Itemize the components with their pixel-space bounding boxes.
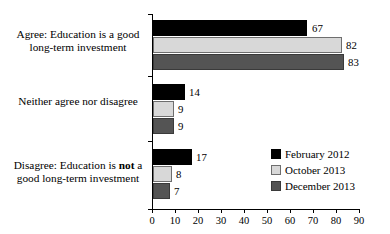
x-tick-label-60: 60 [278, 215, 302, 227]
bar-value-neither-oct2013: 9 [175, 101, 183, 117]
legend-label-october-2013: October 2013 [285, 164, 345, 176]
category-label-neither-text: Neither agree nor disagree [18, 95, 138, 107]
legend-item-december-2013: December 2013 [271, 178, 355, 193]
x-tick-80 [336, 209, 337, 213]
x-tick-50 [267, 209, 268, 213]
legend-item-october-2013: October 2013 [271, 162, 355, 177]
chart-legend: February 2012 October 2013 December 2013 [271, 146, 355, 194]
bar-agree-dec2013 [153, 54, 344, 70]
bar-neither-dec2013 [153, 118, 174, 134]
x-tick-30 [221, 209, 222, 213]
bar-value-agree-oct2013: 82 [343, 37, 357, 53]
legend-label-february-2012: February 2012 [285, 148, 349, 160]
x-tick-label-10: 10 [163, 215, 187, 227]
bar-value-neither-feb2012: 14 [186, 84, 200, 100]
x-tick-10 [175, 209, 176, 213]
bar-value-disagree-dec2013: 7 [171, 183, 179, 199]
x-tick-label-80: 80 [324, 215, 348, 227]
category-label-agree-line2: long-term investment [30, 41, 127, 53]
x-tick-label-20: 20 [186, 215, 210, 227]
x-tick-label-0: 0 [140, 215, 164, 227]
bar-disagree-oct2013 [153, 166, 172, 182]
y-axis-tick-top [148, 14, 152, 15]
x-tick-90 [359, 209, 360, 213]
legend-item-february-2012: February 2012 [271, 146, 355, 161]
bar-neither-oct2013 [153, 101, 174, 117]
bar-value-disagree-oct2013: 8 [173, 166, 181, 182]
category-label-agree-line1: Agree: Education is a good [17, 28, 140, 40]
bar-agree-feb2012 [153, 20, 307, 36]
legend-swatch-black-icon [271, 149, 281, 159]
y-axis-tick-group1-end [148, 141, 152, 142]
category-label-agree: Agree: Education is a good long-term inv… [4, 28, 152, 54]
y-axis-tick-group0-end [148, 76, 152, 77]
bar-value-neither-dec2013: 9 [175, 118, 183, 134]
bar-neither-feb2012 [153, 84, 185, 100]
bar-value-agree-feb2012: 67 [309, 20, 323, 36]
x-tick-label-40: 40 [232, 215, 256, 227]
x-tick-20 [198, 209, 199, 213]
legend-label-december-2013: December 2013 [285, 180, 355, 192]
bar-agree-oct2013 [153, 37, 342, 53]
x-tick-label-50: 50 [255, 215, 279, 227]
bar-disagree-dec2013 [153, 183, 170, 199]
legend-swatch-light-gray-icon [271, 165, 281, 175]
x-tick-70 [313, 209, 314, 213]
category-label-neither: Neither agree nor disagree [4, 95, 152, 108]
bar-value-agree-dec2013: 83 [345, 54, 359, 70]
x-tick-label-70: 70 [301, 215, 325, 227]
x-tick-label-30: 30 [209, 215, 233, 227]
x-axis-line [152, 209, 359, 210]
bar-disagree-feb2012 [153, 149, 192, 165]
legend-swatch-dark-gray-icon [271, 181, 281, 191]
x-tick-0 [152, 209, 153, 213]
bar-value-disagree-feb2012: 17 [193, 149, 207, 165]
category-label-disagree-emphasis: not [119, 159, 135, 171]
x-tick-40 [244, 209, 245, 213]
category-label-disagree-pre: Disagree: Education is [14, 159, 119, 171]
horizontal-bar-chart: Agree: Education is a good long-term inv… [0, 0, 390, 234]
x-tick-60 [290, 209, 291, 213]
x-tick-label-90: 90 [347, 215, 371, 227]
category-label-disagree: Disagree: Education is not a good long-t… [4, 159, 152, 185]
